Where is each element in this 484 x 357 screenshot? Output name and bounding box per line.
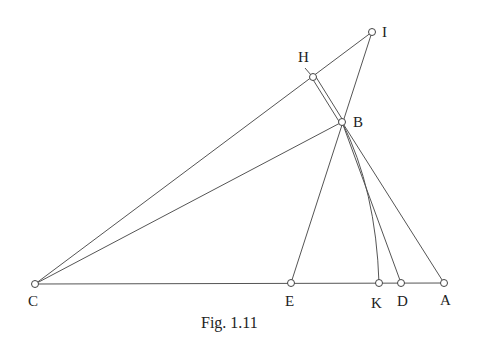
line-CI [35,32,372,284]
label-D: D [397,293,408,309]
label-A: A [440,292,451,308]
geometry-figure: I H B C E K D A Fig. 1.11 [0,0,484,357]
point-I [369,29,376,36]
label-I: I [382,24,387,40]
label-K: K [371,295,382,311]
label-H: H [298,49,309,65]
point-K [376,280,383,287]
point-D [398,280,405,287]
line-BA [342,122,444,283]
label-B: B [353,114,363,130]
point-A [441,280,448,287]
point-E [288,280,295,287]
line-HB-outer [312,78,340,123]
line-CB [35,122,342,284]
line-BD [342,122,401,283]
label-C: C [28,293,38,309]
point-B [339,119,346,126]
label-E: E [285,293,294,309]
figure-caption: Fig. 1.11 [201,314,258,332]
line-HB-inner [316,77,344,122]
arc-BK [342,122,379,283]
point-C [32,281,39,288]
line-IE [291,32,372,283]
point-H [310,74,317,81]
tick-mark-H [305,68,311,75]
